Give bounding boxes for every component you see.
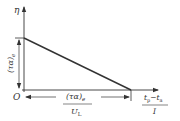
origin-label: O bbox=[13, 92, 21, 102]
y-axis-label: η bbox=[14, 5, 20, 15]
svg-text:UL: UL bbox=[71, 107, 82, 117]
svg-text:(τα)e: (τα)e bbox=[6, 53, 16, 73]
svg-text:tp−ta: tp−ta bbox=[144, 93, 163, 104]
x-dimension-label: (τα)e UL bbox=[63, 92, 92, 117]
svg-text:(τα)e: (τα)e bbox=[66, 92, 86, 102]
efficiency-diagram: η O (τα)e (τα)e UL tp−ta I bbox=[0, 0, 180, 121]
x-axis-label: tp−ta I bbox=[142, 93, 168, 116]
svg-text:I: I bbox=[152, 107, 157, 116]
intercept-label: (τα)e bbox=[6, 53, 16, 73]
efficiency-line bbox=[24, 38, 131, 90]
